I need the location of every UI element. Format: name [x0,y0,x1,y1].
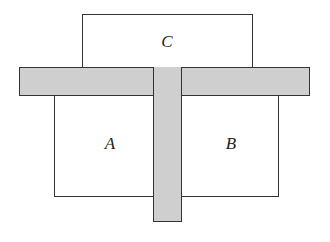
vertical-bar [153,67,182,222]
label-b: B [226,134,236,154]
label-c: C [161,32,172,52]
label-a: A [105,134,115,154]
